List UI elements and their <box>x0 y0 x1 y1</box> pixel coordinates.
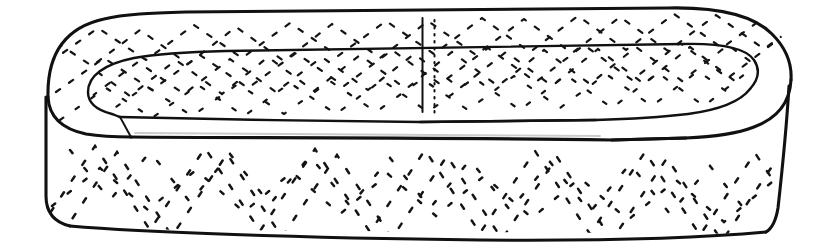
line-drawing-canvas <box>0 0 834 250</box>
figure-root <box>0 0 834 250</box>
